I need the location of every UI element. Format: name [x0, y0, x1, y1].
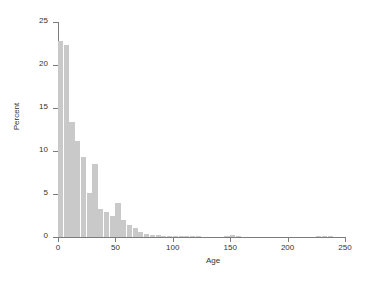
histogram-bar: [179, 236, 184, 237]
histogram-bar: [224, 236, 229, 237]
histogram-bar: [236, 236, 241, 237]
x-axis-label-text: Age: [206, 256, 220, 265]
histogram-bar: [138, 232, 143, 237]
x-axis-tick: [58, 237, 59, 242]
histogram-bar: [156, 235, 161, 237]
x-axis-tick-label: 250: [330, 243, 360, 252]
histogram-bar: [104, 212, 109, 237]
histogram-bar: [316, 236, 321, 237]
histogram-bar: [69, 122, 74, 237]
x-axis-tick-label: 100: [158, 243, 188, 252]
x-axis-tick-label: 50: [100, 243, 130, 252]
histogram-bar: [322, 236, 327, 237]
y-axis-tick-label: 15: [32, 103, 48, 111]
histogram-bar: [75, 141, 80, 237]
y-axis-tick-label: 0: [32, 232, 48, 240]
x-axis-tick-label: 200: [273, 243, 303, 252]
histogram-bar: [150, 235, 155, 237]
histogram-bar: [167, 236, 172, 237]
x-axis-tick-label: 150: [215, 243, 245, 252]
y-axis-tick-label: 10: [32, 146, 48, 154]
x-axis-tick: [230, 237, 231, 242]
histogram-bar: [328, 236, 333, 237]
y-axis-tick-label: 25: [32, 17, 48, 25]
histogram-bar: [127, 225, 132, 237]
x-axis-tick: [115, 237, 116, 242]
histogram-figure: 0510152025 050100150200250 Percent Age: [0, 0, 382, 288]
y-axis-tick: [53, 151, 58, 152]
histogram-bar: [81, 157, 86, 237]
histogram-bar: [87, 193, 92, 237]
histogram-bar: [121, 220, 126, 237]
y-axis-tick: [53, 194, 58, 195]
x-axis-tick: [173, 237, 174, 242]
x-axis-label: Age: [0, 256, 382, 265]
y-axis-label: Percent: [12, 87, 21, 147]
histogram-bar: [92, 164, 97, 237]
histogram-bar: [190, 236, 195, 237]
x-axis-tick: [288, 237, 289, 242]
histogram-bar: [64, 45, 69, 237]
histogram-bar: [115, 203, 120, 237]
y-axis-tick: [53, 108, 58, 109]
plot-area: 0510152025 050100150200250 Percent Age: [0, 0, 382, 288]
histogram-bar: [58, 41, 63, 237]
y-axis-tick: [53, 65, 58, 66]
y-axis-tick-label: 5: [32, 189, 48, 197]
y-axis-tick: [53, 22, 58, 23]
histogram-bar: [110, 216, 115, 238]
histogram-bar: [144, 234, 149, 237]
histogram-bar: [98, 209, 103, 237]
x-axis-line: [58, 237, 346, 238]
histogram-bar: [196, 236, 201, 237]
x-axis-tick: [345, 237, 346, 242]
histogram-bar: [184, 236, 189, 237]
y-axis-tick-label: 20: [32, 60, 48, 68]
histogram-bar: [133, 228, 138, 237]
histogram-bar: [161, 236, 166, 237]
x-axis-tick-label: 0: [43, 243, 73, 252]
